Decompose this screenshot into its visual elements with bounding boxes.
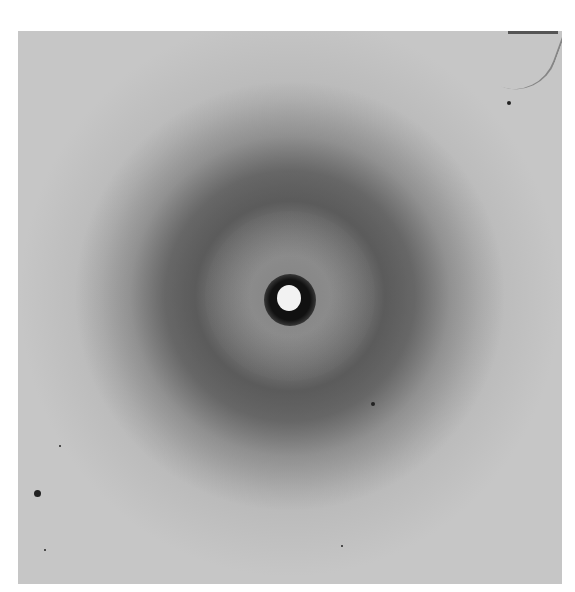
dust-speck (371, 402, 375, 406)
dust-speck (34, 490, 41, 497)
dust-speck (507, 101, 511, 105)
center-spot (277, 285, 301, 311)
scratch-mark (501, 31, 562, 101)
diffraction-plate (18, 31, 562, 584)
dust-speck (341, 545, 343, 547)
figure-caption-fragment (0, 0, 575, 4)
dust-speck (44, 549, 46, 551)
dust-speck (59, 445, 61, 447)
